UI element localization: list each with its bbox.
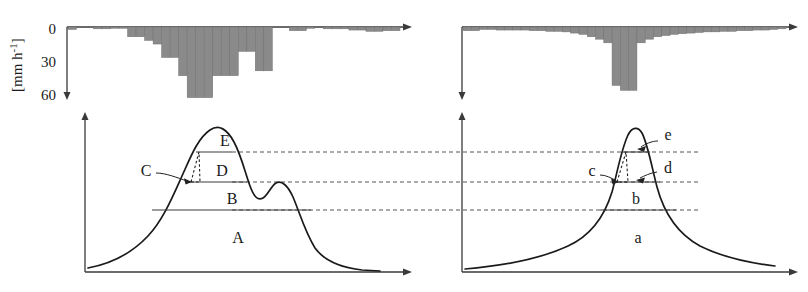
- right-hydrograph: e d c b a: [459, 112, 799, 275]
- bar: [170, 27, 179, 57]
- bar: [769, 27, 777, 29]
- bar: [383, 27, 392, 31]
- right-zone-label-b: b: [632, 190, 640, 207]
- right-zone-label-c: c: [588, 162, 595, 179]
- bar: [587, 27, 595, 37]
- bar: [323, 27, 332, 29]
- left-zone-label-D: D: [216, 162, 228, 179]
- bar: [68, 27, 77, 29]
- left-zone-C-triangle: [191, 152, 200, 182]
- left-hydrograph: E D C B A: [82, 112, 413, 275]
- right-zone-e-leader: [641, 141, 658, 147]
- bar: [471, 27, 479, 31]
- bar: [187, 27, 196, 98]
- bar: [670, 27, 678, 34]
- bar: [612, 27, 620, 85]
- bar: [221, 27, 230, 76]
- bar: [604, 27, 612, 43]
- right-hyetograph-xaxis-arrow: [789, 24, 798, 31]
- bar: [391, 27, 400, 31]
- bar: [162, 27, 171, 57]
- bar: [247, 27, 256, 51]
- bar: [521, 27, 529, 30]
- right-zone-label-d: d: [664, 159, 672, 176]
- bar: [678, 27, 686, 34]
- panel-link-lines: [232, 152, 700, 210]
- bar: [213, 27, 222, 76]
- left-hyetograph-ylabel: [mm h-1]: [7, 38, 25, 92]
- bar: [264, 27, 273, 71]
- bar: [196, 27, 205, 98]
- bar: [153, 27, 162, 44]
- bar: [119, 27, 128, 28]
- bar: [230, 27, 239, 76]
- bar: [179, 27, 188, 76]
- bar: [111, 27, 120, 28]
- left-hyetograph-bars: [68, 27, 400, 98]
- bar: [554, 27, 562, 31]
- left-hyetograph-xaxis-arrow: [403, 24, 412, 31]
- left-zone-label-A: A: [232, 229, 244, 246]
- bar: [238, 27, 247, 51]
- left-hyetograph-tick-60: 60: [41, 87, 56, 103]
- right-zone-label-a: a: [634, 229, 641, 246]
- bar: [357, 27, 366, 30]
- bar: [289, 27, 298, 31]
- bar: [778, 27, 786, 29]
- bar: [488, 27, 496, 29]
- bar: [645, 27, 653, 39]
- bar: [94, 27, 103, 29]
- right-hyetograph-yaxis-arrow: [459, 92, 466, 100]
- bar: [761, 27, 769, 30]
- left-hyetograph-tick-0: 0: [49, 21, 57, 37]
- bar: [629, 27, 637, 90]
- bar: [711, 27, 719, 32]
- bar: [332, 27, 341, 29]
- bar: [513, 27, 521, 30]
- right-hydrograph-curve: [465, 128, 775, 269]
- bar: [349, 27, 358, 30]
- bar: [579, 27, 587, 34]
- bar: [546, 27, 554, 31]
- bar: [736, 27, 744, 31]
- figure-canvas: [mm h-1] 0 30 60: [0, 0, 808, 292]
- bar: [687, 27, 695, 33]
- bar: [695, 27, 703, 32]
- bar: [496, 27, 504, 30]
- left-zone-label-B: B: [227, 190, 238, 207]
- bar: [102, 27, 111, 29]
- left-hyetograph-tick-30: 30: [41, 54, 56, 70]
- bar: [480, 27, 488, 29]
- bar: [136, 27, 145, 37]
- left-hydrograph-yaxis-arrow: [82, 112, 89, 120]
- bar: [204, 27, 213, 98]
- bar: [538, 27, 546, 31]
- bar: [306, 27, 315, 28]
- bar: [662, 27, 670, 36]
- bar: [298, 27, 307, 31]
- left-zone-label-E: E: [220, 132, 230, 149]
- right-hydrograph-xaxis-arrow: [789, 269, 798, 276]
- bar: [653, 27, 661, 37]
- bar: [596, 27, 604, 39]
- figure-root: [mm h-1] 0 30 60: [0, 0, 808, 292]
- left-hydrograph-xaxis-arrow: [403, 269, 412, 276]
- left-zone-label-C: C: [141, 162, 152, 179]
- bar: [620, 27, 628, 90]
- bar: [753, 27, 761, 30]
- bar: [562, 27, 570, 32]
- bar: [637, 27, 645, 43]
- right-hyetograph: [459, 24, 799, 100]
- left-hyetograph-yaxis-arrow: [64, 92, 71, 100]
- bar: [529, 27, 537, 31]
- bar: [728, 27, 736, 31]
- bar: [463, 27, 471, 31]
- right-zone-label-e: e: [664, 126, 671, 143]
- left-hyetograph: [mm h-1] 0 30 60: [7, 21, 412, 103]
- right-hyetograph-bars: [463, 27, 786, 90]
- right-hydrograph-yaxis-arrow: [459, 112, 466, 120]
- bar: [128, 27, 137, 37]
- bar: [745, 27, 753, 31]
- bar: [703, 27, 711, 32]
- bar: [340, 27, 349, 29]
